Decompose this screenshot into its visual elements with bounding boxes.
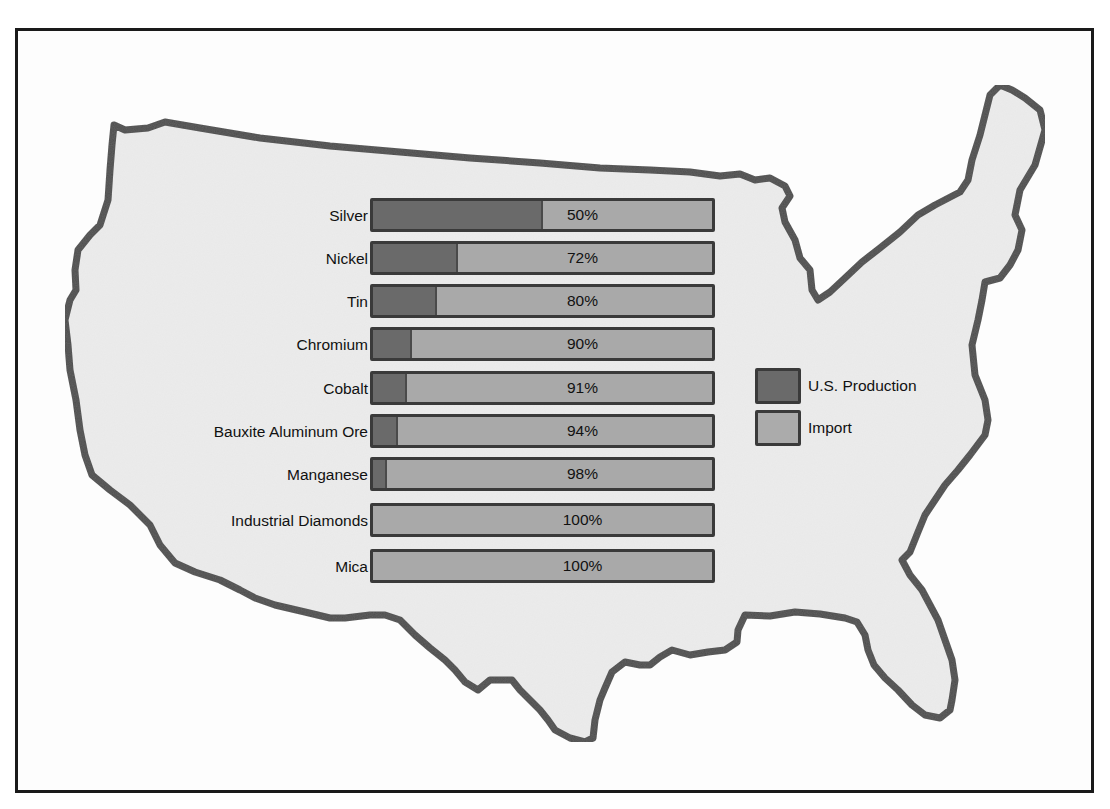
stacked-bar: 50% [370,198,715,232]
import-percent-label: 100% [373,552,712,580]
chart-row: Nickel 72% [0,241,720,277]
category-label: Mica [335,549,368,585]
stacked-bar: 91% [370,371,715,405]
stacked-bar: 100% [370,549,715,583]
chart-row: Tin 80% [0,284,720,320]
chart-row: Cobalt 91% [0,371,720,407]
import-percent-label: 100% [373,506,712,534]
stacked-bar: 72% [370,241,715,275]
stacked-bar: 98% [370,457,715,491]
chart-row: Industrial Diamonds 100% [0,503,720,539]
stacked-bar: 100% [370,503,715,537]
chart-row: Silver 50% [0,198,720,234]
category-label: Bauxite Aluminum Ore [214,414,368,450]
stacked-bar: 94% [370,414,715,448]
chart-row: Chromium 90% [0,327,720,363]
import-percent-label: 50% [373,201,712,229]
stacked-bar: 90% [370,327,715,361]
import-percent-label: 91% [373,374,712,402]
category-label: Chromium [297,327,368,363]
category-label: Cobalt [323,371,368,407]
category-label: Industrial Diamonds [231,503,368,539]
us-production-swatch [755,368,801,404]
chart-row: Bauxite Aluminum Ore 94% [0,414,720,450]
category-label: Tin [347,284,368,320]
legend-label: U.S. Production [808,368,917,404]
import-percent-label: 98% [373,460,712,488]
import-percent-label: 80% [373,287,712,315]
import-percent-label: 90% [373,330,712,358]
chart-row: Manganese 98% [0,457,720,493]
import-percent-label: 94% [373,417,712,445]
stacked-bar: 80% [370,284,715,318]
category-label: Silver [329,198,368,234]
category-label: Manganese [287,457,368,493]
import-percent-label: 72% [373,244,712,272]
import-swatch [755,410,801,446]
legend-label: Import [808,410,852,446]
chart-row: Mica 100% [0,549,720,585]
category-label: Nickel [326,241,368,277]
